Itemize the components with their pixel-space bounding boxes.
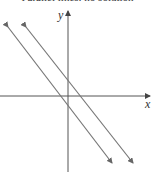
parallel-line-2 xyxy=(26,27,133,163)
coordinate-plane: y x xyxy=(0,0,155,172)
x-axis-label: x xyxy=(144,97,151,111)
parallel-line-1 xyxy=(8,27,112,163)
y-axis-label: y xyxy=(57,8,64,22)
